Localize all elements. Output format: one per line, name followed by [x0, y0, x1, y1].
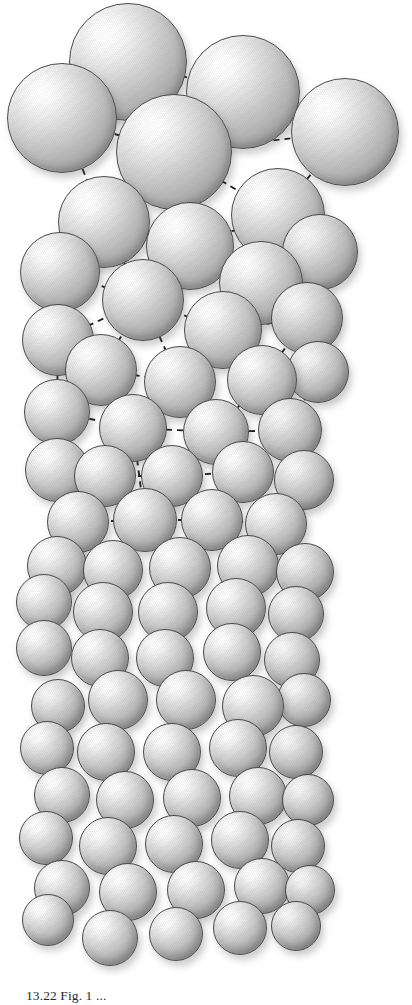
sphere	[156, 670, 216, 730]
sphere	[149, 907, 203, 961]
sphere	[7, 63, 117, 173]
sphere	[269, 725, 323, 779]
sphere	[282, 774, 334, 826]
figure-caption: 13.22 Fig. 1 ...	[0, 988, 412, 1005]
sphere	[271, 901, 321, 951]
sphere	[203, 623, 261, 681]
sphere	[102, 259, 184, 341]
sphere	[16, 620, 72, 676]
sphere	[22, 894, 74, 946]
sphere	[88, 670, 148, 730]
sphere	[287, 341, 349, 403]
figure-page: 13.22 Fig. 1 ...	[0, 0, 412, 1005]
sphere	[82, 910, 138, 966]
sphere	[291, 78, 399, 186]
sphere	[213, 901, 267, 955]
sphere	[20, 232, 100, 312]
figure-caption-text: 13.22 Fig. 1 ...	[0, 988, 412, 1004]
sphere-packing-illustration	[0, 0, 412, 985]
sphere	[24, 379, 90, 445]
sphere	[277, 673, 331, 727]
sphere	[19, 811, 73, 865]
